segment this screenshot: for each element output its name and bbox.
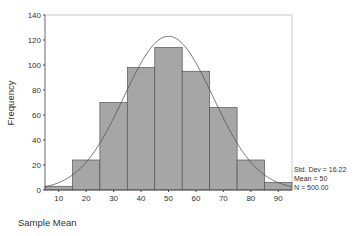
x-tick-label: 40 [137,194,146,203]
x-tick-label: 10 [54,194,63,203]
y-axis-title: Frequency [5,80,16,125]
y-tick-label: 20 [32,161,41,170]
statistics-legend: Std. Dev = 16.22 Mean = 50 N = 500.00 [294,166,346,191]
y-tick-label: 60 [32,111,41,120]
histogram-bar [45,186,72,190]
y-tick-label: 0 [37,186,42,195]
histogram-bar [155,48,182,191]
x-axis: 102030405060708090 [45,190,292,203]
histogram-bar [210,108,237,191]
x-tick-label: 50 [164,194,173,203]
x-tick-label: 60 [191,194,200,203]
y-tick-label: 100 [28,61,42,70]
x-tick-label: 30 [109,194,118,203]
y-tick-label: 120 [28,36,42,45]
y-tick-label: 40 [32,136,41,145]
x-tick-label: 20 [82,194,91,203]
histogram-chart: 020406080100120140 102030405060708090 Fr… [0,0,358,236]
std-dev-label: Std. Dev = 16.22 [294,166,346,173]
x-axis-title: Sample Mean [18,217,77,228]
histogram-bar [265,183,292,191]
n-label: N = 500.00 [294,184,329,191]
histogram-bar [182,71,209,190]
y-tick-label: 140 [28,11,42,20]
histogram-bar [100,103,127,191]
x-tick-label: 90 [274,194,283,203]
y-tick-label: 80 [32,86,41,95]
histogram-bar [237,160,264,190]
x-tick-label: 80 [246,194,255,203]
histogram-bar [127,68,154,191]
y-axis: 020406080100120140 [28,11,45,195]
histogram-bars [45,48,292,191]
histogram-bar [72,160,99,190]
x-tick-label: 70 [219,194,228,203]
mean-label: Mean = 50 [294,175,327,182]
